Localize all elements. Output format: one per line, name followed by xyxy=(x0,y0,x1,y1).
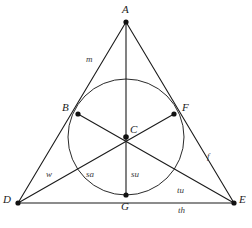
vertex-label-A: A xyxy=(122,4,129,15)
segment-label-m: m xyxy=(86,55,93,64)
geometry-figure: A B C D E F G m f w sa su tu th xyxy=(0,0,252,228)
point-marker-A xyxy=(123,19,128,24)
segment-label-w: w xyxy=(46,170,52,179)
vertex-label-B: B xyxy=(62,102,69,113)
point-marker-E xyxy=(231,200,236,205)
vertex-label-C: C xyxy=(130,124,137,135)
point-marker-D xyxy=(15,200,20,205)
vertex-label-E: E xyxy=(239,194,246,205)
vertex-label-G: G xyxy=(121,201,129,212)
segment-label-su: su xyxy=(131,170,139,179)
vertex-label-F: F xyxy=(182,102,189,113)
side-A-E xyxy=(126,22,234,203)
geometry-canvas xyxy=(0,0,252,228)
point-marker-C xyxy=(123,134,129,140)
point-marker-F xyxy=(171,111,176,116)
segment-label-tu: tu xyxy=(177,186,184,195)
segment-label-sa: sa xyxy=(86,170,94,179)
segment-label-th: th xyxy=(178,206,185,215)
point-marker-G xyxy=(123,192,128,197)
point-marker-B xyxy=(75,111,80,116)
vertex-label-D: D xyxy=(3,194,11,205)
side-A-D xyxy=(18,22,126,203)
segment-label-f: f xyxy=(207,152,210,161)
